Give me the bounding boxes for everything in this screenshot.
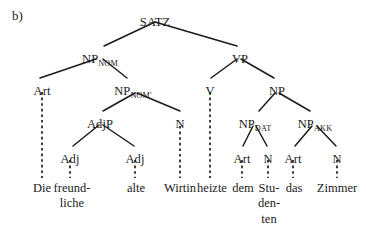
node-label-base: N xyxy=(175,117,184,131)
terminal-line: Die xyxy=(33,181,51,196)
node-label-base: VP xyxy=(232,52,248,66)
tree-node-npnom: NPNOM xyxy=(82,53,118,66)
tree-node-adj2: Adj xyxy=(125,153,144,166)
terminal-word-heizte: heizte xyxy=(197,181,227,196)
tree-node-npnombar: NPNOM' xyxy=(114,85,152,98)
tree-node-np: NP xyxy=(269,85,285,98)
tree-node-npakk: NPAKK xyxy=(298,118,333,131)
solid-branch-group xyxy=(40,22,336,146)
tree-node-art2: Art xyxy=(234,153,251,166)
tree-node-art3: Art xyxy=(285,153,302,166)
node-label-base: NP xyxy=(269,84,285,98)
tree-node-adjp: AdjP xyxy=(87,118,113,131)
node-label-subscript: DAT xyxy=(255,124,272,133)
node-label-base: SATZ xyxy=(140,15,170,29)
node-label-base: NP xyxy=(239,117,255,131)
tree-node-n1: N xyxy=(175,118,184,131)
terminal-line: ten xyxy=(258,212,280,227)
tree-node-v: V xyxy=(205,85,214,98)
node-label-base: NP xyxy=(82,52,98,66)
panel-label: b) xyxy=(12,9,23,22)
node-label-base: Art xyxy=(285,152,302,166)
syntax-tree-figure: b) SATZNPNOMVPArtNPNOM'VNPAdjPNNPDATNPAK… xyxy=(0,0,366,230)
terminal-line: Stu- xyxy=(258,181,280,196)
node-label-base: Adj xyxy=(125,152,144,166)
node-label-base: N xyxy=(332,152,341,166)
terminal-word-freund: freund-liche xyxy=(54,181,91,212)
terminal-word-die: Die xyxy=(33,181,51,196)
terminal-word-wirtin: Wirtin xyxy=(164,181,196,196)
tree-node-npdat: NPDAT xyxy=(239,118,272,131)
terminal-word-studenten: Stu-den-ten xyxy=(258,181,280,227)
terminal-line: Wirtin xyxy=(164,181,196,196)
node-label-base: Art xyxy=(34,84,51,98)
tree-node-n2: N xyxy=(263,153,272,166)
tree-node-n3: N xyxy=(332,153,341,166)
terminal-line: freund- xyxy=(54,181,91,196)
terminal-word-zimmer: Zimmer xyxy=(317,181,357,196)
node-label-base: N xyxy=(263,152,272,166)
terminal-line: liche xyxy=(54,196,91,211)
node-label-base: Art xyxy=(234,152,251,166)
terminal-line: alte xyxy=(127,181,145,196)
terminal-line: den- xyxy=(258,196,280,211)
node-label-base: NP xyxy=(298,117,314,131)
node-label-subscript: NOM xyxy=(98,59,118,68)
node-label-base: AdjP xyxy=(87,117,113,131)
node-label-base: NP xyxy=(114,84,130,98)
node-label-base: V xyxy=(205,84,214,98)
terminal-line: heizte xyxy=(197,181,227,196)
node-label-subscript: NOM' xyxy=(130,91,151,100)
node-label-subscript: AKK xyxy=(314,124,332,133)
terminal-line: Zimmer xyxy=(317,181,357,196)
tree-node-satz: SATZ xyxy=(140,16,170,29)
node-label-base: Adj xyxy=(60,152,79,166)
tree-node-art1: Art xyxy=(34,85,51,98)
terminal-line: das xyxy=(286,181,303,196)
terminal-word-das: das xyxy=(286,181,303,196)
terminal-word-dem: dem xyxy=(232,181,254,196)
tree-node-adj1: Adj xyxy=(60,153,79,166)
terminal-word-alte: alte xyxy=(127,181,145,196)
terminal-line: dem xyxy=(232,181,254,196)
tree-node-vp: VP xyxy=(232,53,248,66)
